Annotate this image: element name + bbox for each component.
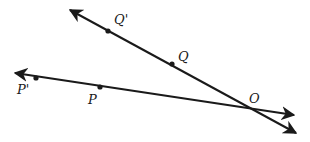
point-dot: [97, 84, 102, 89]
point-dot: [33, 75, 38, 80]
point-dot: [169, 61, 174, 66]
point-label: P': [16, 82, 29, 97]
point-label: O: [249, 91, 260, 106]
diagram-canvas: Q'QOP'P: [0, 0, 310, 142]
point-label: Q': [114, 12, 128, 27]
point-label: P: [87, 92, 97, 107]
point-label: Q: [178, 49, 189, 64]
point-dot: [105, 28, 110, 33]
line-QO: [70, 10, 296, 133]
